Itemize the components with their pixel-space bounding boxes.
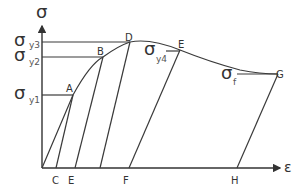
unload-line-d-f bbox=[100, 42, 130, 168]
svg-text:σ: σ bbox=[221, 62, 232, 83]
point-label-d: D bbox=[125, 32, 133, 43]
point-label-b: B bbox=[97, 46, 104, 57]
label-sigma-y1: σ y1 bbox=[14, 82, 40, 105]
label-sigma-y4: σ y4 bbox=[144, 38, 167, 64]
point-label-g: G bbox=[276, 69, 284, 80]
svg-text:σ: σ bbox=[14, 82, 25, 103]
svg-text:y2: y2 bbox=[29, 57, 40, 67]
svg-text:f: f bbox=[233, 77, 237, 87]
point-label-f: F bbox=[123, 175, 129, 186]
svg-text:y4: y4 bbox=[156, 54, 167, 64]
x-axis-label: ε bbox=[284, 159, 292, 175]
unload-line-e-f bbox=[129, 50, 180, 168]
y-axis-label: σ bbox=[36, 1, 47, 22]
svg-text:σ: σ bbox=[14, 44, 25, 65]
point-label-h: H bbox=[231, 175, 239, 186]
unload-line-g-h bbox=[237, 74, 278, 168]
point-label-e-axis: E bbox=[68, 175, 74, 186]
point-label-c: C bbox=[52, 175, 59, 186]
stress-strain-diagram: σ ε σ y3 σ y2 σ y1 σ y4 σ f A B D E G C … bbox=[0, 0, 308, 191]
point-label-e-curve: E bbox=[178, 39, 184, 50]
svg-text:σ: σ bbox=[144, 38, 155, 59]
svg-text:y1: y1 bbox=[29, 95, 40, 105]
label-sigma-f: σ f bbox=[221, 62, 237, 87]
unload-line-a-c bbox=[56, 95, 73, 168]
point-label-a: A bbox=[66, 83, 73, 94]
svg-text:y3: y3 bbox=[29, 40, 40, 50]
unload-line-b-e bbox=[75, 57, 103, 168]
